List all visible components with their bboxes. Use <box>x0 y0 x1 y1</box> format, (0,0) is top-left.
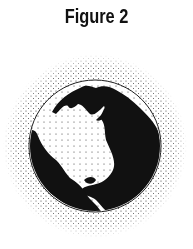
globe-diagram <box>0 0 193 249</box>
